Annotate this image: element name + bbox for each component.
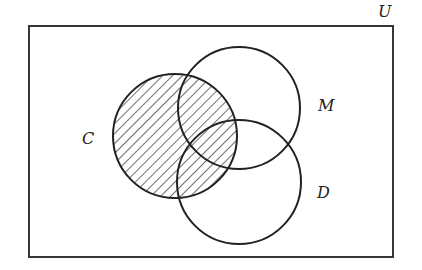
set-m-label: M: [317, 96, 335, 115]
set-c-circle: [113, 74, 237, 198]
set-c-label: C: [82, 129, 94, 148]
set-d-label: D: [316, 183, 330, 202]
venn-diagram: U C M D: [0, 0, 422, 270]
universe-label: U: [378, 2, 392, 21]
